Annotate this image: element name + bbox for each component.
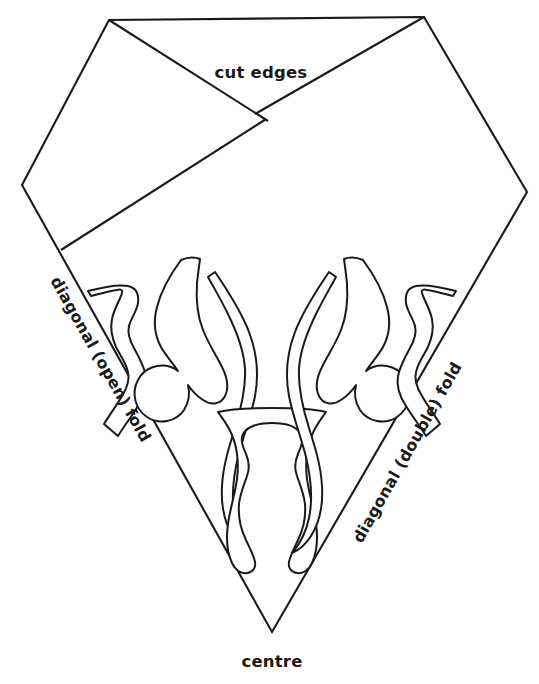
flap-edge-lower-diagonal: [61, 119, 266, 250]
diagram-root: cut edges diagonal (open) fold diagonal …: [0, 0, 539, 684]
label-cut-edges: cut edges: [215, 63, 308, 82]
pattern-diagram: cut edges diagonal (open) fold diagonal …: [0, 0, 539, 684]
label-centre: centre: [241, 652, 302, 671]
sheet-outline: [22, 17, 527, 632]
